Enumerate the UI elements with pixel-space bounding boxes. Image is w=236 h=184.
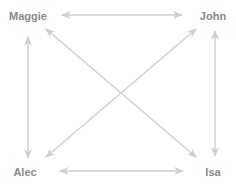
node-isa: Isa xyxy=(205,166,220,178)
node-alec: Alec xyxy=(13,166,36,178)
node-maggie: Maggie xyxy=(9,10,47,22)
edges-layer xyxy=(0,0,236,184)
node-john: John xyxy=(200,10,226,22)
